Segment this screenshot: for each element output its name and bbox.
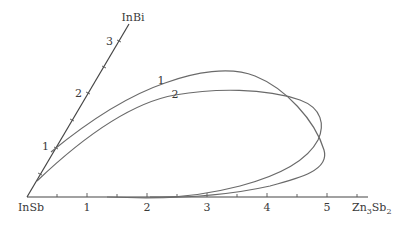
vertex-sb-text: Sb: [372, 201, 387, 214]
curve-2-label: 2: [172, 88, 179, 101]
d-tick-label-1: 1: [42, 140, 49, 153]
d-tick-label-3: 3: [106, 35, 113, 48]
diagonal-axis: [27, 24, 129, 197]
phase-diagram: 1 2 1 2 3 4 5 1 2 3 InSb InBi Zn3Sb2: [0, 0, 408, 228]
curve-2: [37, 90, 321, 197]
vertex-inbi-label: InBi: [121, 11, 145, 24]
h-tick-label-2: 2: [144, 201, 151, 214]
vertex-zn-text: Zn: [352, 201, 367, 214]
h-tick-label-3: 3: [204, 201, 211, 214]
vertex-sub-2: 2: [386, 207, 391, 216]
vertex-zn3sb2-label: Zn3Sb2: [352, 201, 392, 216]
h-tick-label-1: 1: [84, 201, 91, 214]
h-tick-label-5: 5: [324, 201, 331, 214]
d-tick-label-2: 2: [75, 87, 82, 100]
h-tick-label-4: 4: [264, 201, 271, 214]
vertex-insb-label: InSb: [18, 201, 44, 214]
curve-1-label: 1: [158, 74, 165, 87]
